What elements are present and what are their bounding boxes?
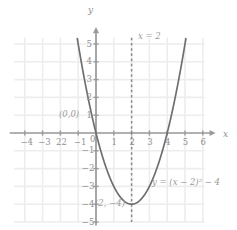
x-tick-label: 3: [147, 138, 152, 147]
y-tick-label: 1: [86, 111, 91, 120]
x-tick-label: 4: [165, 138, 170, 147]
y-tick-label: 5: [86, 40, 91, 49]
point-label-vertex: (2, −4): [95, 199, 125, 208]
y-tick-label: −1: [82, 146, 95, 155]
y-tick-label: −4: [82, 200, 95, 209]
y-axis-label: y: [88, 6, 93, 15]
y-tick-label: 4: [86, 57, 91, 66]
x-axis-arrow: [210, 130, 216, 136]
graph-figure: y x y = (x − 2)² − 4 x = 2 (0,0) (2, −4)…: [0, 0, 237, 230]
x-tick-label: 1: [112, 138, 117, 147]
origin-tick-label: 0: [90, 135, 95, 144]
y-axis-arrow: [93, 27, 99, 33]
y-tick-label: −2: [82, 164, 95, 173]
x-tick-label: 5: [183, 138, 188, 147]
x-tick-label: −4: [20, 138, 33, 147]
y-tick-label: −3: [82, 182, 95, 191]
x-tick-label: 2: [129, 138, 134, 147]
equation-label: y = (x − 2)² − 4: [152, 178, 220, 187]
coordinate-plane: [0, 0, 237, 230]
x-tick-label: 22: [56, 138, 67, 147]
x-tick-label: −3: [38, 138, 51, 147]
axis-of-symmetry-label: x = 2: [138, 32, 161, 41]
y-tick-label: −5: [82, 218, 95, 227]
gridlines: [14, 38, 204, 222]
x-tick-label: 6: [201, 138, 206, 147]
x-axis-label: x: [223, 130, 228, 139]
y-tick-label: 3: [86, 75, 91, 84]
y-tick-label: 2: [86, 93, 91, 102]
point-label-origin: (0,0): [59, 110, 79, 119]
